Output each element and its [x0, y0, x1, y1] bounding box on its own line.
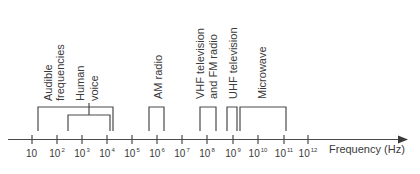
bracket-human-voice — [68, 115, 110, 131]
bracket-vhf-fm — [200, 107, 216, 131]
tick-label: 103 — [74, 147, 89, 159]
axis-title: Frequency (Hz) — [329, 143, 405, 155]
tick-label: 108 — [199, 147, 214, 159]
tick-label: 10 — [26, 147, 38, 159]
tick-label: 106 — [149, 147, 164, 159]
tick-label: 105 — [124, 147, 139, 159]
tick-label: 104 — [99, 147, 114, 159]
tick-label: 107 — [174, 147, 189, 159]
label-audible: Audible — [42, 64, 54, 101]
label-microwave: Microwave — [256, 46, 268, 99]
tick-label: 1012 — [299, 147, 318, 159]
label-vhf-television: VHF television — [194, 28, 206, 99]
tick-label: 1011 — [275, 147, 293, 159]
label-human: Human — [74, 66, 86, 101]
tick-label: 1010 — [249, 147, 268, 159]
bracket-audible-frequencies — [38, 107, 113, 131]
label-frequencies: frequencies — [54, 44, 66, 101]
label-voice: voice — [88, 75, 100, 101]
frequency-spectrum-diagram: Audible frequencies Human voice AM radio… — [0, 0, 420, 174]
label-and-fm-radio: and FM radio — [207, 34, 219, 99]
bracket-uhf-television — [227, 107, 237, 131]
tick-label: 102 — [49, 147, 64, 159]
label-am-radio: AM radio — [152, 55, 164, 99]
label-uhf-television: UHF television — [227, 27, 239, 99]
bracket-am-radio — [149, 107, 164, 131]
bracket-microwave — [240, 107, 286, 131]
tick-label: 109 — [225, 147, 240, 159]
